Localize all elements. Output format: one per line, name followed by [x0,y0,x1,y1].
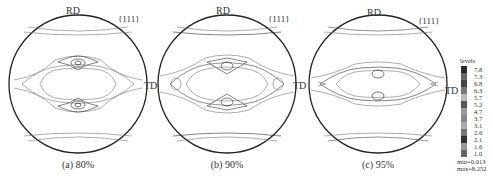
legend-swatch [461,94,467,101]
rd-label-a: RD [66,6,80,16]
legend-value: 3.7 [474,115,482,122]
legend-max: max=8.252 [457,165,486,172]
legend-value: 5.7 [474,94,482,101]
legend-swatch [461,143,467,150]
legend-value: 2.6 [474,129,482,136]
legend-title: levels [460,57,475,64]
legend-swatch [461,80,467,87]
legend-value: 1.0 [474,150,482,157]
caption-a: (a) 80% [62,160,94,170]
legend-value: 6.8 [474,80,482,87]
legend-value: 7.3 [474,73,482,80]
legend-swatch [461,129,467,136]
legend-value: 7.8 [474,66,482,73]
legend-value: 6.3 [474,87,482,94]
legend-value: 1.6 [474,143,482,150]
plane-label-a: {111} [118,14,139,24]
caption-b: (b) 90% [211,160,244,170]
legend-swatch [461,101,467,108]
pole-figure-c [309,15,447,153]
plane-label-c: {111} [418,16,439,26]
legend-value: 4.7 [474,108,482,115]
pole-figure-a [9,15,147,153]
legend-value: 2.1 [474,136,482,143]
caption-c: (c) 95% [362,160,394,170]
td-label-a: TD [144,81,157,91]
legend-swatch [461,115,467,122]
td-label-b: TD [293,81,306,91]
legend-value: 3.1 [474,122,482,129]
legend-swatch [461,150,467,157]
td-label-c: TD [445,86,458,96]
rd-label-b: RD [216,6,230,16]
legend-swatch [461,108,467,115]
rd-label-c: RD [367,8,381,18]
legend-min: min=0.013 [457,158,485,165]
legend-swatch [461,66,467,73]
legend-swatch [461,136,467,143]
plane-label-b: {111} [268,14,289,24]
legend-swatch [461,122,467,129]
legend-value: 5.2 [474,101,482,108]
legend-swatch [461,73,467,80]
legend-swatch [461,87,467,94]
pole-figures [0,0,493,180]
pole-figure-b [158,15,296,153]
